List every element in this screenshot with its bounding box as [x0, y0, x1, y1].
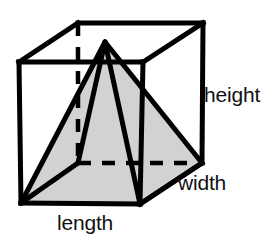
cube-edge-top-right-receding	[143, 23, 203, 62]
label-width: width	[178, 172, 226, 193]
cube-edge-back-right-vertical	[202, 23, 203, 163]
cube-edge-top-left-receding	[19, 23, 78, 62]
label-length: length	[57, 212, 113, 233]
label-height: height	[204, 84, 260, 105]
geometry-figure: height width length	[0, 0, 278, 246]
cube-edge-front-bottom	[21, 203, 140, 204]
cube-edge-front-left-vertical	[19, 62, 21, 203]
pyramid-in-box-diagram	[0, 0, 278, 246]
